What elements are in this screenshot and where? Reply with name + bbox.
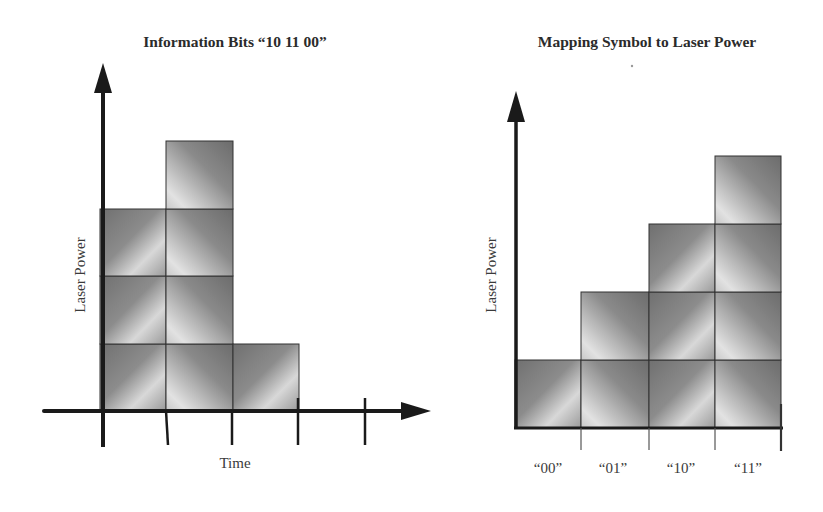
symbol-label: “01” (599, 460, 627, 476)
arrow-up-icon (94, 63, 112, 93)
power-box (715, 156, 781, 224)
stray-dot (631, 65, 633, 67)
symbol-label: “10” (667, 460, 695, 476)
power-box (649, 292, 715, 360)
left-x-axis-label: Time (219, 455, 250, 471)
right-y-axis-label: Laser Power (483, 237, 499, 312)
left-panel: Information Bits “10 11 00” (44, 33, 431, 471)
power-box (515, 360, 581, 428)
left-y-axis-label: Laser Power (72, 237, 88, 312)
power-box (233, 344, 299, 410)
power-box (649, 224, 715, 292)
right-boxes (515, 156, 781, 428)
power-box (715, 224, 781, 292)
right-panel-title: Mapping Symbol to Laser Power (538, 33, 757, 50)
left-column-1-boxes (100, 209, 166, 410)
left-column-2-boxes (166, 141, 233, 410)
power-box (581, 292, 649, 360)
arrow-right-icon (401, 402, 431, 420)
power-box (166, 141, 233, 209)
power-box (715, 360, 781, 428)
arrow-up-icon (507, 91, 525, 122)
power-box (100, 344, 166, 410)
left-column-3-boxes (233, 344, 299, 410)
symbol-label: “11” (734, 460, 762, 476)
power-box (649, 360, 715, 428)
power-box (166, 344, 233, 410)
power-box (166, 209, 233, 276)
power-box (166, 276, 233, 344)
power-box (581, 360, 649, 428)
power-box (100, 209, 166, 276)
power-box (100, 276, 166, 344)
time-tick (166, 411, 168, 445)
symbol-label: “00” (534, 460, 562, 476)
power-box (715, 292, 781, 360)
right-panel: Mapping Symbol to Laser Power (483, 33, 783, 476)
left-panel-title: Information Bits “10 11 00” (143, 33, 327, 50)
symbol-labels: “00” “01” “10” “11” (534, 460, 762, 476)
diagram-canvas: Information Bits “10 11 00” (0, 0, 823, 512)
